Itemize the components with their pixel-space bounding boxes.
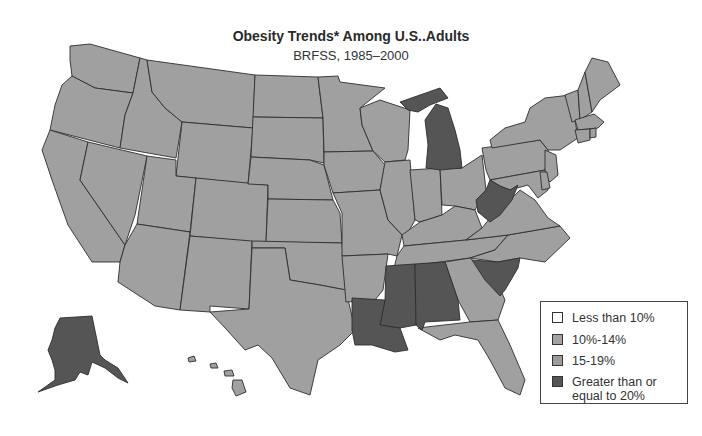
state-south-dakota	[251, 117, 324, 163]
legend-item-less-than-10: Less than 10%	[552, 311, 655, 325]
state-north-dakota	[253, 75, 323, 118]
legend-item-15-19: 15-19%	[552, 354, 615, 368]
legend-swatch-gray	[552, 355, 563, 366]
state-arizona	[118, 224, 190, 310]
legend-item-10-14: 10%-14%	[552, 333, 626, 347]
legend-label-line2: equal to 20%	[572, 389, 657, 403]
legend: Less than 10% 10%-14% 15-19% Greater tha…	[540, 301, 688, 404]
legend-swatch-white	[552, 312, 563, 323]
state-connecticut	[575, 129, 590, 143]
legend-swatch-light-gray	[552, 334, 563, 345]
state-alaska	[38, 316, 128, 392]
legend-swatch-dark-gray	[552, 376, 563, 387]
legend-label: Less than 10%	[572, 311, 655, 325]
state-arkansas	[342, 254, 388, 302]
legend-item-ge-20: Greater than or equal to 20%	[552, 375, 657, 403]
state-hawaii	[188, 356, 246, 396]
state-wyoming	[176, 122, 253, 184]
legend-label-line1: Greater than or	[572, 375, 657, 389]
state-colorado	[190, 178, 268, 243]
state-iowa	[324, 151, 385, 193]
state-new-mexico	[180, 236, 252, 312]
state-indiana	[410, 168, 442, 222]
state-maine	[585, 58, 620, 112]
state-mississippi	[380, 264, 416, 328]
state-florida	[418, 320, 525, 395]
legend-label: 10%-14%	[572, 333, 626, 347]
legend-label: 15-19%	[572, 354, 615, 368]
state-kansas	[266, 199, 342, 243]
state-rhode-island	[590, 128, 596, 138]
